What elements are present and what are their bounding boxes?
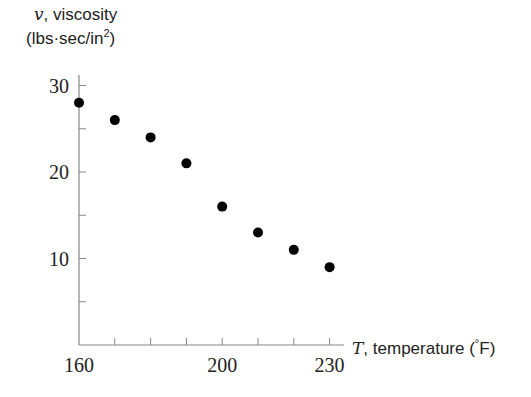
x-tick-label: 200 [207,354,237,376]
axes: 102030160200230 [49,75,345,377]
data-point [110,115,120,125]
x-units-close: F) [479,339,495,358]
data-point [217,202,227,212]
x-tick-label: 230 [315,354,345,376]
data-point [253,228,263,238]
data-point [325,262,335,272]
data-points [74,98,335,272]
data-point [146,132,156,142]
x-tick-label: 160 [64,354,94,376]
y-tick-label: 30 [49,75,69,97]
x-axis-variable: T [352,338,363,358]
y-tick-label: 10 [49,248,69,270]
y-tick-label: 20 [49,161,69,183]
data-point [74,98,84,108]
data-point [181,158,191,168]
x-axis-label: T, temperature (°F) [352,337,495,359]
x-axis-name: , temperature ( [363,339,475,358]
data-point [289,245,299,255]
